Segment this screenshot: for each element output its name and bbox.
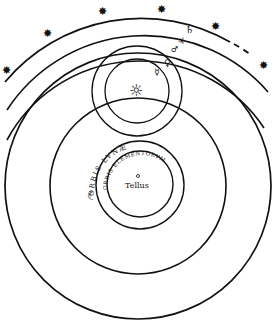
mercury-icon: ☿ [154,67,160,77]
earth-dot [137,175,140,178]
cosmological-diagram: ✸ ✸ ✸ ✸ ✸ ✸ ♄ ♃ ♂ ♀ ☿ ☼ ☾ ORBIS LVNÆ ORB… [0,0,274,325]
star-icon: ✸ [157,3,166,16]
jupiter-sphere-arc [7,61,264,140]
earth-label: Tellus [125,181,149,190]
jupiter-icon: ♃ [177,36,185,46]
star-icon: ✸ [211,20,220,33]
star-icon: ✸ [43,27,52,40]
star-icon: ✸ [259,59,268,72]
sun-icon: ☼ [129,81,143,100]
saturn-icon: ♄ [185,24,194,35]
star-icon: ✸ [98,5,107,18]
venus-icon: ♀ [164,58,171,68]
mars-icon: ♂ [171,45,178,54]
star-icon: ✸ [2,64,11,77]
